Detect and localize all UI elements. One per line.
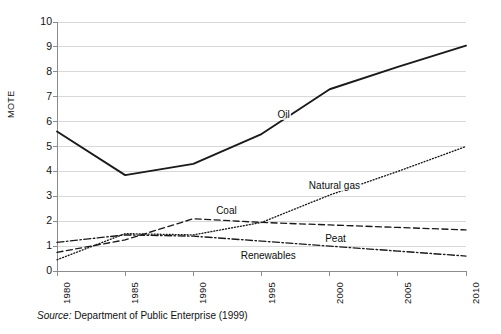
y-tick-label: 3	[28, 190, 52, 201]
y-tick-label: 1	[28, 240, 52, 251]
gridlines	[57, 22, 466, 271]
y-axis-title: MOTE	[6, 72, 16, 118]
series-label-natural-gas: Natural gas	[308, 181, 361, 192]
series-line-natural-gas	[57, 147, 466, 260]
y-tick-label: 0	[28, 265, 52, 276]
series-line-oil	[57, 46, 466, 175]
y-tick-label: 7	[28, 91, 52, 102]
x-tick-marks	[53, 22, 466, 276]
series-lines	[57, 46, 466, 260]
y-tick-labels: 012345678910	[22, 0, 52, 334]
y-tick-label: 2	[28, 215, 52, 226]
series-line-coal	[57, 219, 466, 253]
series-label-oil: Oil	[276, 110, 290, 121]
x-tick-label: 1990	[197, 282, 208, 304]
y-tick-label: 9	[28, 41, 52, 52]
series-label-renewables: Renewables	[240, 251, 297, 262]
y-axis-title-text: MOTE	[6, 72, 16, 118]
source-caption: Source: Department of Public Enterprise …	[37, 310, 248, 321]
plot-area	[0, 0, 501, 334]
x-tick-label: 1980	[61, 282, 72, 304]
x-tick-label: 1985	[129, 282, 140, 304]
chart-figure: MOTE 012345678910 1980198519901995200020…	[0, 0, 501, 334]
x-tick-label: 1995	[266, 282, 277, 304]
x-tick-label: 2010	[470, 282, 481, 304]
y-tick-label: 6	[28, 116, 52, 127]
x-tick-label: 2000	[334, 282, 345, 304]
series-label-coal: Coal	[215, 206, 238, 217]
y-tick-label: 8	[28, 66, 52, 77]
source-text: Department of Public Enterprise (1999)	[74, 310, 247, 321]
series-label-peat: Peat	[324, 234, 347, 245]
y-tick-label: 5	[28, 141, 52, 152]
x-tick-label: 2005	[402, 282, 413, 304]
y-tick-label: 10	[28, 16, 52, 27]
y-tick-label: 4	[28, 165, 52, 176]
source-prefix: Source:	[37, 310, 71, 321]
